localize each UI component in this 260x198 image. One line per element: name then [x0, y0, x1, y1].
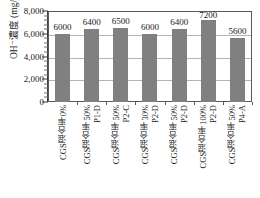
x-axis-label-slot: P4-ACGS混合率50% [223, 105, 252, 197]
y-axis-minor-tick [44, 42, 48, 43]
x-axis-label: P4-ACGS混合率50% [227, 105, 247, 197]
x-axis-tick [223, 102, 224, 105]
x-axis-tick [77, 102, 78, 105]
x-axis-label-slot: P2-DCGS混合率30% [135, 105, 164, 197]
x-axis-tick [106, 102, 107, 105]
x-axis-label-line: CGS混合率50% [111, 105, 121, 164]
x-axis-label-line: CGS混合率50% [169, 105, 179, 164]
y-axis-tick-label: 8,000 [24, 7, 44, 16]
bar-value-label: 6400 [170, 18, 188, 27]
bar-chart: OH⁻濃度 (mg/L) 8,0006,0004,0002,0000 60006… [0, 0, 260, 198]
bar[interactable] [172, 29, 187, 102]
bar-slot: 6400 [77, 11, 106, 102]
y-axis-minor-tick [44, 47, 48, 48]
y-axis-minor-tick [44, 24, 48, 25]
bar-slot: 6000 [48, 11, 77, 102]
x-axis-label-line: P4-A [237, 105, 247, 123]
x-axis-label-line: CGS混合率50% [82, 105, 92, 164]
x-axis-label: P2-DCGS混合率50% [169, 105, 189, 197]
y-axis-minor-tick [44, 65, 48, 66]
x-axis-label: P2-DCGS混合率100% [198, 105, 218, 197]
bar[interactable] [55, 34, 70, 102]
x-axis-category-labels: CGS混合率0%P1-DCGS混合率50%P2-CCGS混合率50%P2-DCG… [48, 105, 252, 197]
bar[interactable] [230, 38, 245, 102]
x-axis-label-slot: P2-DCGS混合率50% [165, 105, 194, 197]
bar-value-label: 6000 [141, 23, 159, 32]
bar-value-label: 7200 [199, 11, 217, 20]
y-axis-minor-tick [44, 61, 48, 62]
bar[interactable] [142, 34, 157, 102]
x-axis-label-line: CGS混合率0% [58, 105, 68, 160]
bar-value-label: 6000 [54, 23, 72, 32]
x-axis-tick [194, 102, 195, 105]
x-axis-label: P2-CCGS混合率50% [111, 105, 131, 197]
y-axis-major-tick [42, 56, 48, 57]
y-axis-minor-tick [44, 74, 48, 75]
y-axis-minor-tick [44, 88, 48, 89]
x-axis-label-line: CGS混合率100% [198, 105, 208, 168]
y-axis-minor-tick [44, 20, 48, 21]
y-axis-minor-tick [44, 51, 48, 52]
bar-value-label: 6500 [112, 17, 130, 26]
bar-slot: 6400 [165, 11, 194, 102]
y-axis-minor-tick [44, 38, 48, 39]
y-axis-tick-label: 2,000 [24, 75, 44, 84]
y-axis-tick-labels: 8,0006,0004,0002,0000 [8, 0, 44, 108]
y-axis-major-tick [42, 79, 48, 80]
x-axis-tick [252, 102, 253, 105]
bar-value-label: 6400 [83, 18, 101, 27]
y-axis-tick-label: 4,000 [24, 52, 44, 61]
x-axis-label: P1-DCGS混合率50% [82, 105, 102, 197]
bar-slot: 6000 [135, 11, 164, 102]
y-axis-minor-tick [44, 29, 48, 30]
y-axis-major-tick [42, 102, 48, 103]
y-axis-minor-tick [44, 70, 48, 71]
bar-slot: 6500 [106, 11, 135, 102]
x-axis-label-line: P2-D [179, 105, 189, 123]
x-axis-label: CGS混合率0% [58, 105, 68, 197]
x-axis-label: P2-DCGS混合率30% [140, 105, 160, 197]
y-axis-major-tick [42, 11, 48, 12]
bar-slot: 5600 [223, 11, 252, 102]
x-axis-label-line: P2-C [121, 105, 131, 122]
bar-value-label: 5600 [228, 27, 246, 36]
x-axis-tick [135, 102, 136, 105]
x-axis-label-line: CGS混合率30% [140, 105, 150, 164]
bar[interactable] [113, 28, 128, 102]
x-axis-label-line: CGS混合率50% [227, 105, 237, 164]
y-axis-minor-tick [44, 15, 48, 16]
x-axis-label-line: P2-D [150, 105, 160, 123]
y-axis-major-tick [42, 33, 48, 34]
x-axis-tick [165, 102, 166, 105]
x-axis-label-slot: P2-CCGS混合率50% [106, 105, 135, 197]
x-axis-label-slot: CGS混合率0% [48, 105, 77, 197]
y-axis-minor-tick [44, 83, 48, 84]
bar[interactable] [84, 29, 99, 102]
bar-slot: 7200 [194, 11, 223, 102]
y-axis-tick-label: 6,000 [24, 29, 44, 38]
x-axis-label-line: P1-D [92, 105, 102, 123]
y-axis-minor-tick [44, 97, 48, 98]
bar-series: 6000640065006000640072005600 [48, 11, 252, 102]
x-axis-label-slot: P1-DCGS混合率50% [77, 105, 106, 197]
x-axis-label-line: P2-D [208, 105, 218, 123]
y-axis-minor-tick [44, 92, 48, 93]
x-axis-label-slot: P2-DCGS混合率100% [194, 105, 223, 197]
bar[interactable] [201, 20, 216, 102]
